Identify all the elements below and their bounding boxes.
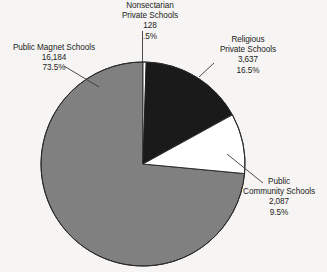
slice-label-value: 3,637 bbox=[196, 55, 300, 65]
pie-chart: Nonsectarian Private Schools 128 .5% Rel… bbox=[0, 0, 327, 272]
slice-label-value: 2,087 bbox=[233, 197, 325, 207]
slice-label-percent: 16.5% bbox=[196, 66, 300, 76]
slice-label-percent: 9.5% bbox=[233, 208, 325, 218]
slice-label-value: 16,184 bbox=[2, 53, 106, 63]
slice-label-nonsectarian-private-schools: Nonsectarian Private Schools 128 .5% bbox=[92, 1, 208, 42]
slice-label-percent: 73.5% bbox=[2, 63, 106, 73]
slice-label-value: 128 bbox=[92, 21, 208, 31]
slice-label-line-2: Private Schools bbox=[196, 45, 300, 55]
slice-label-line-1: Religious bbox=[196, 35, 300, 45]
slice-label-public-community-schools: Public Community Schools 2,087 9.5% bbox=[233, 177, 325, 218]
slice-label-religious-private-schools: Religious Private Schools 3,637 16.5% bbox=[196, 35, 300, 76]
slice-label-public-magnet-schools: Public Magnet Schools 16,184 73.5% bbox=[2, 43, 106, 74]
slice-label-line-2: Private Schools bbox=[92, 11, 208, 21]
slice-label-percent: .5% bbox=[92, 32, 208, 42]
slice-label-line-2: Community Schools bbox=[233, 187, 325, 197]
slice-label-line-1: Public bbox=[233, 177, 325, 187]
slice-label-line-1: Public Magnet Schools bbox=[2, 43, 106, 53]
slice-label-line-1: Nonsectarian bbox=[92, 1, 208, 11]
